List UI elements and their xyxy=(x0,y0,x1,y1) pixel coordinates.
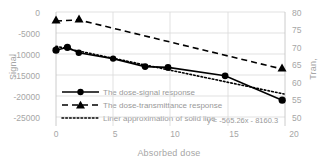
chart-container: Signal Tran, Absorbed dose 0 -5000 -1000… xyxy=(0,0,326,165)
legend-swatch-dose-transmittance xyxy=(62,101,99,109)
series-dose-transmittance xyxy=(52,15,287,72)
legend-swatch-dose-signal xyxy=(62,89,99,95)
plot-area xyxy=(0,0,326,165)
